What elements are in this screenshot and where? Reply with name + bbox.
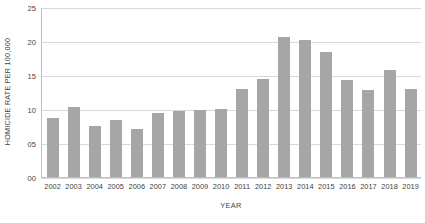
x-axis-tick-label: 2011 — [232, 182, 253, 191]
x-axis-tick-label: 2002 — [42, 182, 63, 191]
bar[interactable] — [131, 129, 143, 177]
x-axis-tick-label: 2013 — [274, 182, 295, 191]
bar-slot — [316, 8, 337, 177]
bar[interactable] — [47, 118, 59, 177]
bar[interactable] — [194, 110, 206, 177]
bar[interactable] — [405, 89, 417, 177]
bar-slot — [211, 8, 232, 177]
bar[interactable] — [152, 113, 164, 177]
y-axis-tick-label: 20 — [0, 38, 36, 47]
bar[interactable] — [384, 70, 396, 177]
bar-slot — [168, 8, 189, 177]
bar[interactable] — [236, 89, 248, 177]
x-axis-tick-label: 2017 — [358, 182, 379, 191]
x-axis-tick-label: 2018 — [379, 182, 400, 191]
bar-slot — [274, 8, 295, 177]
bar[interactable] — [110, 120, 122, 177]
plot-area — [41, 8, 421, 178]
bar-slot — [400, 8, 421, 177]
x-axis-line — [41, 177, 421, 178]
bar[interactable] — [299, 40, 311, 177]
bar-slot — [147, 8, 168, 177]
x-axis-tick-label: 2006 — [126, 182, 147, 191]
bar-slot — [253, 8, 274, 177]
bar-slot — [232, 8, 253, 177]
bar-slot — [42, 8, 63, 177]
x-axis-tick-label: 2008 — [168, 182, 189, 191]
x-axis-tick-label: 2015 — [316, 182, 337, 191]
bar[interactable] — [215, 109, 227, 177]
x-axis-tick-label: 2019 — [400, 182, 421, 191]
x-axis-tick-label: 2016 — [337, 182, 358, 191]
bar-slot — [105, 8, 126, 177]
x-axis-tick-label: 2012 — [253, 182, 274, 191]
bar-slot — [295, 8, 316, 177]
x-axis-title: YEAR — [41, 201, 421, 210]
bar[interactable] — [89, 126, 101, 177]
y-axis-tick-label: 25 — [0, 4, 36, 13]
bar-slot — [63, 8, 84, 177]
bar-chart: HOMICIDE RATE PER 100,000 000510152025 2… — [0, 0, 425, 223]
bar[interactable] — [362, 90, 374, 177]
y-axis-tick-label: 00 — [0, 174, 36, 183]
x-axis-tick-labels: 2002200320042005200620072008200920102011… — [42, 182, 421, 191]
bar[interactable] — [341, 80, 353, 177]
bar[interactable] — [68, 107, 80, 177]
bar[interactable] — [320, 52, 332, 177]
bar-series — [42, 8, 421, 177]
x-axis-tick-label: 2010 — [211, 182, 232, 191]
bar[interactable] — [257, 79, 269, 177]
x-axis-tick-label: 2004 — [84, 182, 105, 191]
bar-slot — [84, 8, 105, 177]
x-axis-tick-label: 2003 — [63, 182, 84, 191]
bar[interactable] — [278, 37, 290, 177]
y-axis-tick-label: 05 — [0, 140, 36, 149]
x-axis-tick-label: 2009 — [189, 182, 210, 191]
x-axis-tick-label: 2005 — [105, 182, 126, 191]
y-axis-title: HOMICIDE RATE PER 100,000 — [0, 0, 16, 183]
gridline — [41, 178, 421, 179]
x-axis-tick-label: 2014 — [295, 182, 316, 191]
y-axis-tick-label: 15 — [0, 72, 36, 81]
x-axis-tick-label: 2007 — [147, 182, 168, 191]
y-axis-tick-label: 10 — [0, 106, 36, 115]
bar-slot — [126, 8, 147, 177]
bar-slot — [189, 8, 210, 177]
bar-slot — [337, 8, 358, 177]
y-axis-title-label: HOMICIDE RATE PER 100,000 — [4, 38, 13, 146]
bar-slot — [379, 8, 400, 177]
bar[interactable] — [173, 111, 185, 177]
bar-slot — [358, 8, 379, 177]
